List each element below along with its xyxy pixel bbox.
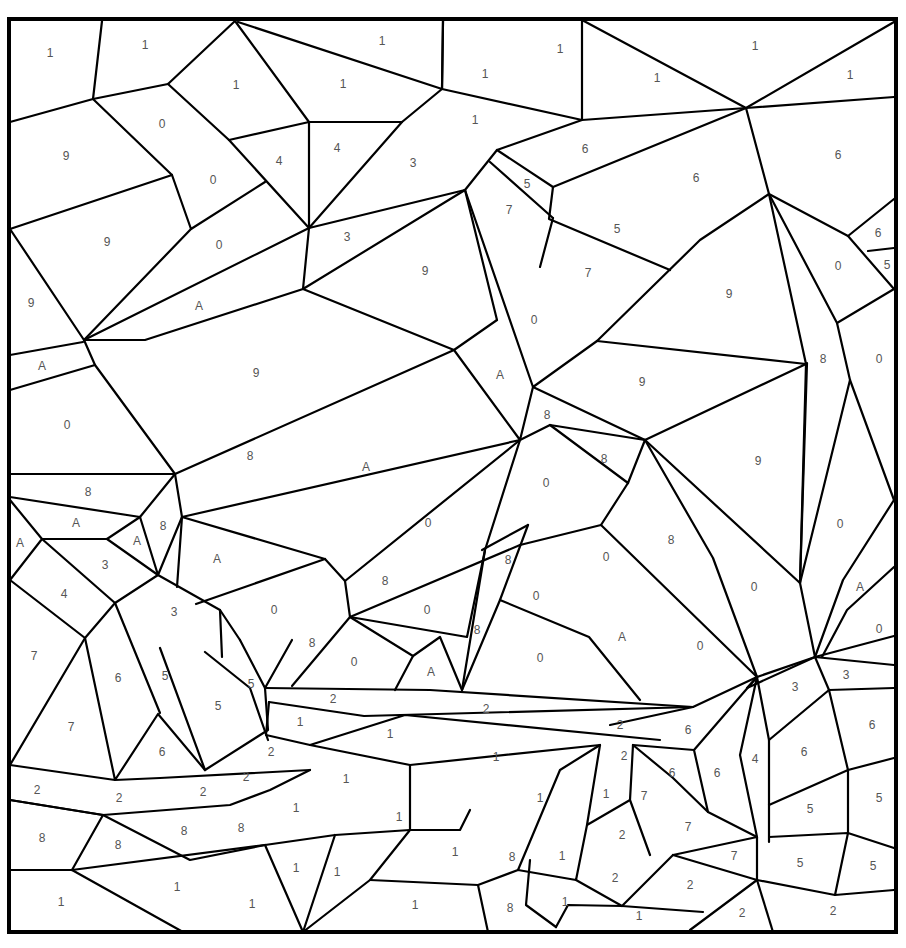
region-label: 7 (68, 721, 75, 733)
region-label: 8 (247, 450, 254, 462)
region-label: 9 (726, 288, 733, 300)
region-label: 6 (835, 149, 842, 161)
region-label: 1 (482, 68, 489, 80)
region-label: 1 (562, 896, 569, 908)
region-label: 1 (557, 43, 564, 55)
region-label: 1 (396, 811, 403, 823)
region-label: 6 (685, 724, 692, 736)
region-label: 5 (614, 223, 621, 235)
region-label: 0 (837, 518, 844, 530)
region-label: 1 (559, 850, 566, 862)
region-label: 8 (507, 902, 514, 914)
region-label: 1 (249, 898, 256, 910)
region-label: 9 (422, 265, 429, 277)
color-by-number-canvas: 11111111111900443666575765090399A90A9A98… (0, 0, 906, 948)
region-label: 4 (276, 155, 283, 167)
region-label: 2 (116, 792, 123, 804)
region-label: 8 (115, 839, 122, 851)
region-label: 8 (820, 353, 827, 365)
region-label: 5 (248, 678, 255, 690)
region-label: 5 (797, 857, 804, 869)
region-label: 0 (64, 419, 71, 431)
region-label: 8 (601, 453, 608, 465)
region-label: 3 (843, 669, 850, 681)
region-label: 1 (340, 78, 347, 90)
region-label: A (213, 553, 221, 565)
region-label: 3 (102, 559, 109, 571)
region-label: 2 (619, 829, 626, 841)
puzzle-frame (9, 19, 896, 932)
region-label: 4 (752, 753, 759, 765)
region-label: 3 (410, 157, 417, 169)
region-label: 7 (585, 267, 592, 279)
region-label: 1 (58, 896, 65, 908)
region-label: 9 (104, 236, 111, 248)
region-label: 1 (654, 72, 661, 84)
region-label: 3 (344, 231, 351, 243)
region-label: 8 (544, 409, 551, 421)
region-label: A (16, 537, 24, 549)
region-label: 8 (39, 832, 46, 844)
region-label: 0 (531, 314, 538, 326)
region-label: 5 (524, 178, 531, 190)
region-label: 2 (243, 771, 250, 783)
region-label: 1 (603, 788, 610, 800)
region-label: 6 (714, 767, 721, 779)
region-label: 8 (160, 520, 167, 532)
region-label: 2 (612, 872, 619, 884)
region-label: 6 (801, 746, 808, 758)
puzzle-line-art (0, 0, 906, 948)
region-label: 8 (181, 825, 188, 837)
region-label: 2 (330, 693, 337, 705)
region-label: 0 (210, 174, 217, 186)
region-label: 6 (693, 172, 700, 184)
region-label: A (38, 360, 46, 372)
region-label: 7 (731, 850, 738, 862)
region-label: A (427, 666, 435, 678)
region-label: 0 (876, 623, 883, 635)
region-label: 7 (31, 650, 38, 662)
region-label: 1 (142, 39, 149, 51)
region-label: 9 (639, 376, 646, 388)
region-label: 5 (215, 700, 222, 712)
region-label: 0 (424, 604, 431, 616)
region-label: 2 (200, 786, 207, 798)
region-label: 6 (869, 719, 876, 731)
region-label: 3 (792, 681, 799, 693)
region-label: 9 (63, 150, 70, 162)
region-label: 1 (47, 47, 54, 59)
region-label: 8 (85, 486, 92, 498)
region-label: 8 (509, 851, 516, 863)
region-label: 7 (506, 204, 513, 216)
region-label: 1 (636, 910, 643, 922)
region-label: 9 (253, 367, 260, 379)
region-label: 8 (309, 637, 316, 649)
region-label: 0 (351, 656, 358, 668)
region-label: 0 (271, 604, 278, 616)
region-label: 2 (483, 703, 490, 715)
region-label: 2 (687, 879, 694, 891)
region-label: 5 (876, 792, 883, 804)
region-label: A (856, 581, 864, 593)
region-label: 4 (334, 142, 341, 154)
region-label: 0 (835, 260, 842, 272)
region-label: 1 (493, 751, 500, 763)
region-label: 4 (61, 588, 68, 600)
region-label: 2 (617, 719, 624, 731)
region-label: 8 (505, 554, 512, 566)
region-label: 2 (830, 905, 837, 917)
region-label: 1 (379, 35, 386, 47)
region-label: 1 (752, 40, 759, 52)
region-label: A (133, 535, 141, 547)
region-label: 1 (293, 862, 300, 874)
region-label: 1 (174, 881, 181, 893)
region-label: 0 (425, 517, 432, 529)
region-label: 6 (115, 672, 122, 684)
region-label: 0 (697, 640, 704, 652)
region-label: 7 (641, 790, 648, 802)
region-label: 1 (537, 792, 544, 804)
region-label: 7 (685, 821, 692, 833)
region-label: 5 (807, 803, 814, 815)
region-label: 5 (870, 860, 877, 872)
region-label: 1 (452, 846, 459, 858)
